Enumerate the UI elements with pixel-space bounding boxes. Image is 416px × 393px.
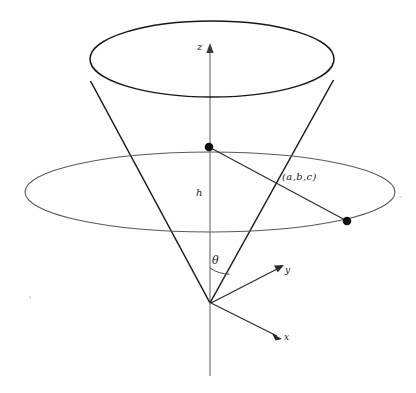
cone-right-slant-edge <box>210 80 334 303</box>
x-axis-arrowhead <box>272 334 282 341</box>
y-axis-label: y <box>285 266 290 275</box>
abc-point-dot <box>343 217 352 226</box>
z-axis-arrowhead <box>206 43 213 53</box>
cone-top-rim-ellipse <box>90 21 334 97</box>
x-axis-label: x <box>284 333 289 342</box>
cone-diagram-svg <box>0 0 416 393</box>
theta-angle-label: θ <box>212 255 219 266</box>
scan-speck-left <box>29 296 31 299</box>
abc-point-label: (a,b,c) <box>282 172 317 182</box>
cone-left-slant-edge <box>91 81 211 303</box>
axis-center-point-dot <box>205 143 214 152</box>
y-axis-arrowhead <box>274 265 284 272</box>
scan-speck-right <box>399 196 402 198</box>
z-axis-label: z <box>197 42 202 52</box>
height-label: h <box>196 188 202 198</box>
radius-segment-line <box>209 147 347 221</box>
cone-diagram-figure: z h θ (a,b,c) y x <box>0 0 416 393</box>
x-axis-line <box>211 303 277 336</box>
